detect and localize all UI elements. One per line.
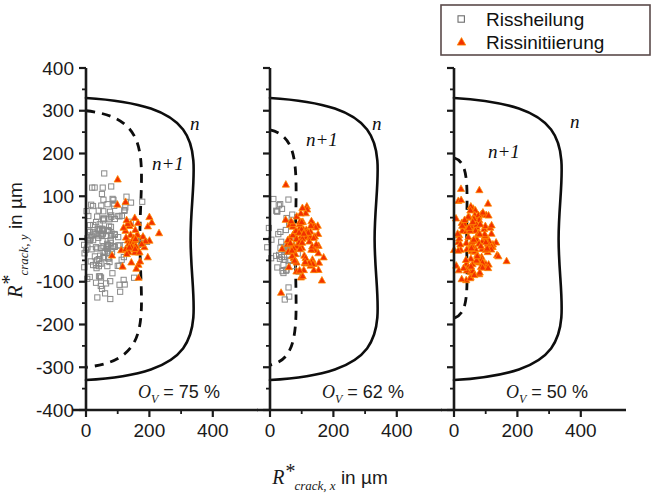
y-axis-title-text: R*crack, y in µm xyxy=(0,182,31,298)
healing-marker xyxy=(283,227,288,232)
y-axis-tick-label: 300 xyxy=(42,100,74,121)
healing-marker xyxy=(286,285,291,290)
x-axis-tick-label: 200 xyxy=(318,420,350,441)
healing-marker xyxy=(279,239,284,244)
initiation-marker xyxy=(114,175,121,182)
initiation-marker xyxy=(277,289,284,296)
x-axis-tick-label: 200 xyxy=(502,420,534,441)
y-axis-tick-label: 200 xyxy=(42,143,74,164)
scatter-group xyxy=(82,171,163,302)
series-rissinitiierung xyxy=(450,185,510,283)
x-axis-tick-label: 400 xyxy=(197,420,229,441)
x-axis-tick-label: 0 xyxy=(449,420,460,441)
healing-marker xyxy=(99,203,104,208)
curve-label-n: n xyxy=(570,111,580,132)
initiation-marker xyxy=(155,229,162,236)
x-axis-tick-label: 200 xyxy=(134,420,166,441)
initiation-marker xyxy=(137,258,144,265)
healing-marker xyxy=(118,289,123,294)
healing-marker xyxy=(124,194,129,199)
panel-annotation-panel-62: OV = 62 % xyxy=(322,382,404,406)
y-axis-title: R*crack, y in µm xyxy=(0,182,31,298)
plot-panel-1: -400-300-200-10001002003004000200400nn+1… xyxy=(36,58,258,442)
healing-marker xyxy=(286,197,291,202)
curve-label-n-plus-1: n+1 xyxy=(488,141,520,162)
legend[interactable]: RissheilungRissinitiierung xyxy=(441,5,650,55)
x-axis-tick-label: 400 xyxy=(565,420,597,441)
initiation-marker xyxy=(318,277,325,284)
plot-panel-2: 0200400nn+1OV = 62 % xyxy=(257,68,442,441)
healing-marker xyxy=(100,185,105,190)
healing-marker xyxy=(87,223,92,228)
scatter-group xyxy=(450,185,510,283)
curve-label-n: n xyxy=(190,113,200,134)
y-axis-tick-label: 0 xyxy=(63,229,74,250)
panel-annotation-panel-50: OV = 50 % xyxy=(506,382,588,406)
y-axis-tick-label: -100 xyxy=(36,271,74,292)
x-axis-title: R*crack, x in µm xyxy=(271,460,387,493)
curve-label-group: nn+1 xyxy=(488,111,580,162)
healing-marker xyxy=(271,196,276,201)
initiation-marker xyxy=(457,185,464,192)
curve-label-group: nn+1 xyxy=(306,113,382,150)
panel-annotation-text: OV = 75 % xyxy=(138,382,220,406)
healing-marker xyxy=(90,203,95,208)
y-axis-tick-label: -400 xyxy=(36,400,74,421)
healing-marker xyxy=(99,191,104,196)
y-axis-tick-label: 400 xyxy=(42,58,74,79)
initiation-marker xyxy=(128,258,135,265)
healing-marker xyxy=(89,202,94,207)
healing-marker xyxy=(275,265,280,270)
healing-marker xyxy=(108,296,113,301)
panel-annotation-text: OV = 50 % xyxy=(506,382,588,406)
healing-marker xyxy=(140,199,145,204)
curve-label-n-plus-1: n+1 xyxy=(306,129,338,150)
initiation-marker xyxy=(484,200,491,207)
initiation-marker xyxy=(282,181,289,188)
initiation-marker xyxy=(458,275,465,282)
plot-panel-3: 0200400nn+1OV = 50 % xyxy=(441,68,626,441)
panel-annotation-text: OV = 62 % xyxy=(322,382,404,406)
y-axis-tick-label: -200 xyxy=(36,314,74,335)
healing-marker xyxy=(290,212,295,217)
healing-marker xyxy=(95,214,100,219)
y-axis-tick-label: -300 xyxy=(36,357,74,378)
healing-marker xyxy=(95,295,100,300)
healing-marker xyxy=(110,271,115,276)
initiation-marker xyxy=(488,221,495,228)
y-axis-tick-label: 100 xyxy=(42,186,74,207)
curve-label-n: n xyxy=(372,113,382,134)
series-rissinitiierung xyxy=(277,181,327,296)
curve-label-n-plus-1: n+1 xyxy=(152,153,184,174)
initiation-marker xyxy=(146,213,153,220)
initiation-marker xyxy=(282,216,289,223)
legend-label-2: Rissinitiierung xyxy=(486,32,604,53)
x-axis-tick-label: 0 xyxy=(265,420,276,441)
initiation-marker xyxy=(476,186,483,193)
initiation-marker xyxy=(131,214,138,221)
x-axis-tick-label: 0 xyxy=(81,420,92,441)
initiation-marker xyxy=(488,230,495,237)
healing-marker xyxy=(109,184,114,189)
scatter-figure-panel-group: -400-300-200-10001002003004000200400nn+1… xyxy=(0,0,655,497)
chart-canvas: -400-300-200-10001002003004000200400nn+1… xyxy=(0,0,655,497)
initiation-marker xyxy=(144,253,151,260)
healing-marker xyxy=(102,171,107,176)
x-axis-tick-label: 400 xyxy=(381,420,413,441)
initiation-marker xyxy=(503,257,510,264)
panel-annotation-panel-75: OV = 75 % xyxy=(138,382,220,406)
legend-label-1: Rissheilung xyxy=(486,9,584,30)
